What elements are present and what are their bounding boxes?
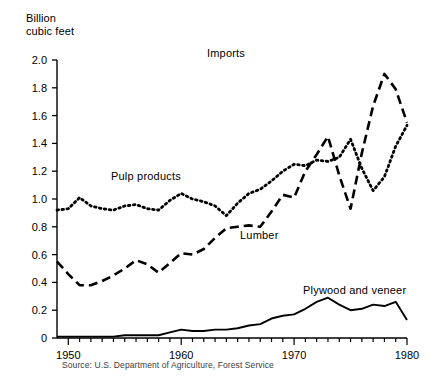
series-label-pulp-products: Pulp products	[111, 170, 181, 182]
imports-chart-figure: Billion cubic feet Imports Pulp products…	[0, 0, 444, 387]
series-label-plywood-and-veneer: Plywood and veneer	[303, 284, 406, 296]
y-tick-label: 1.6	[32, 110, 47, 122]
y-tick-label: 1.0	[32, 193, 47, 205]
y-tick-label: 0	[41, 332, 47, 344]
series-label-lumber: Lumber	[240, 229, 279, 241]
series-layer	[57, 74, 407, 337]
series-line-plywood-and-veneer	[57, 298, 407, 337]
y-tick-label: 1.2	[32, 165, 47, 177]
y-tick-label: 1.8	[32, 82, 47, 94]
source-note: Source: U.S. Department of Agriculture, …	[62, 360, 274, 370]
x-tick-label: 1970	[282, 349, 306, 361]
y-axis-title: Billion cubic feet	[26, 12, 74, 38]
series-line-lumber	[57, 74, 407, 285]
y-tick-label: 0.8	[32, 221, 47, 233]
y-tick-label: 0.2	[32, 304, 47, 316]
y-tick-label: 1.4	[32, 137, 47, 149]
y-tick-label: 2.0	[32, 54, 47, 66]
axes-layer: 00.20.40.60.81.01.21.41.61.82.0195019601…	[32, 54, 420, 361]
x-tick-label: 1980	[395, 349, 419, 361]
series-line-pulp-products	[57, 125, 407, 215]
y-tick-label: 0.6	[32, 249, 47, 261]
chart-title: Imports	[207, 47, 245, 59]
y-tick-label: 0.4	[32, 276, 47, 288]
